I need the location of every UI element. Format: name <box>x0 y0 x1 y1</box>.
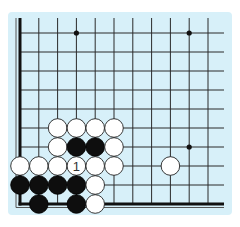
white-stone <box>48 138 67 157</box>
white-stone <box>86 119 105 138</box>
white-stone-icon <box>86 119 105 138</box>
black-stone <box>11 176 30 195</box>
black-stone-icon <box>67 176 86 195</box>
white-stone-icon <box>48 138 67 157</box>
black-stone <box>67 176 86 195</box>
black-stone-icon <box>11 176 30 195</box>
white-stone <box>86 157 105 176</box>
black-stone-icon <box>30 176 49 195</box>
white-stone <box>86 176 105 195</box>
star-point-icon <box>187 144 192 149</box>
black-stone <box>30 176 49 195</box>
white-stone <box>161 157 180 176</box>
black-stone <box>86 138 105 157</box>
star-point-icon <box>187 30 192 35</box>
white-stone <box>105 138 124 157</box>
white-stone-icon <box>48 119 67 138</box>
white-stone-icon <box>86 176 105 195</box>
white-stone <box>67 119 86 138</box>
white-stone-icon <box>11 157 30 176</box>
black-stone <box>67 195 86 214</box>
white-stone <box>30 157 49 176</box>
black-stone-icon <box>67 195 86 214</box>
white-stone-icon <box>105 157 124 176</box>
black-stone-icon <box>86 138 105 157</box>
white-stone-icon <box>86 157 105 176</box>
black-stone-icon <box>30 195 49 214</box>
white-stone <box>105 157 124 176</box>
white-stone-icon <box>67 119 86 138</box>
black-stone-icon <box>48 176 67 195</box>
white-stone-icon <box>105 119 124 138</box>
move-number-label: 1 <box>73 159 80 174</box>
white-stone-icon <box>105 138 124 157</box>
black-stone <box>48 176 67 195</box>
black-stone-icon <box>67 138 86 157</box>
black-stone <box>67 138 86 157</box>
white-stone <box>48 157 67 176</box>
star-point-icon <box>74 30 79 35</box>
black-stone <box>30 195 49 214</box>
white-stone <box>105 119 124 138</box>
white-stone <box>11 157 30 176</box>
white-stone <box>86 195 105 214</box>
white-stone-icon <box>30 157 49 176</box>
go-board: 1 <box>0 0 240 227</box>
white-stone <box>48 119 67 138</box>
white-stone: 1 <box>67 157 86 176</box>
white-stone-icon <box>161 157 180 176</box>
white-stone-icon <box>86 195 105 214</box>
white-stone-icon <box>48 157 67 176</box>
